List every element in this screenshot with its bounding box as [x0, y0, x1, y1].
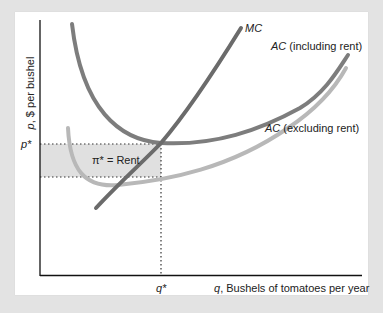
mc-curve [96, 28, 241, 208]
p-star-label: p* [20, 138, 32, 150]
y-axis-label: p, $ per bushel [24, 57, 36, 131]
q-star-label: q* [156, 282, 167, 294]
x-axis-label: q, Bushels of tomatoes per year [214, 282, 370, 294]
ac-excluding-rent-label: AC (excluding rent) [264, 122, 359, 134]
mc-label: MC [245, 22, 262, 34]
ac-including-rent-label: AC (including rent) [270, 40, 362, 52]
rent-label: π* = Rent [92, 154, 140, 166]
chart-svg: p, $ per bushel p* q* q, Bushels of toma… [0, 0, 383, 313]
